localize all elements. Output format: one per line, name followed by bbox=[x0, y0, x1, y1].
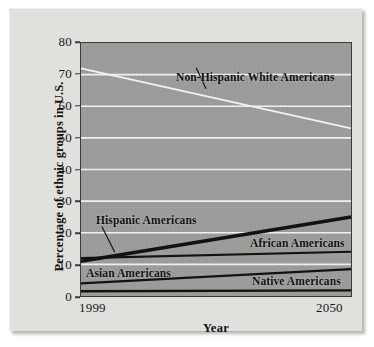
series-label-african: African Americans bbox=[250, 237, 345, 249]
x-tick-label-end: 2050 bbox=[316, 300, 343, 316]
series-label-non-hispanic-white: Non-Hispanic White Americans bbox=[176, 71, 334, 83]
figure-container: 80 70 60 50 40 30 20 10 0 Percentage of … bbox=[0, 0, 374, 347]
series-label-hispanic: Hispanic Americans bbox=[96, 214, 197, 226]
y-axis-ticks: 80 70 60 50 40 30 20 10 0 bbox=[10, 9, 80, 297]
leader-line-hispanic bbox=[102, 227, 115, 253]
series-label-asian: Asian Americans bbox=[86, 267, 171, 279]
series-line-native bbox=[81, 290, 351, 291]
y-axis-title: Percentage of ethnic groups in U.S. bbox=[52, 62, 67, 292]
chart-card: 80 70 60 50 40 30 20 10 0 Percentage of … bbox=[9, 8, 362, 331]
x-tick-label-start: 1999 bbox=[79, 300, 106, 316]
x-axis-title: Year bbox=[80, 321, 352, 336]
series-label-native: Native Americans bbox=[252, 275, 341, 287]
y-tick-label-80: 80 bbox=[59, 34, 72, 50]
